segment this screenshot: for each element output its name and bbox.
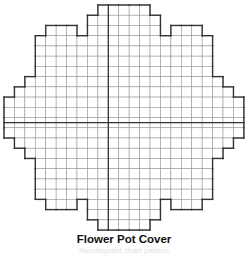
grid-cell <box>140 138 150 148</box>
grid-cell <box>140 25 150 35</box>
grid-cell <box>171 179 181 189</box>
grid-cell <box>108 138 118 148</box>
grid-cell <box>56 56 66 66</box>
grid-cell <box>77 77 87 87</box>
grid-cell <box>119 148 129 158</box>
grid-cell <box>140 15 150 25</box>
grid-cell <box>108 220 118 230</box>
grid-cell <box>14 87 24 97</box>
grid-cell <box>25 97 35 107</box>
grid-cell <box>14 138 24 148</box>
grid-cell <box>171 25 181 35</box>
grid-cell <box>129 15 139 25</box>
grid-cell <box>171 66 181 76</box>
grid-cell <box>150 148 160 158</box>
grid-cell <box>160 36 170 46</box>
grid-cell <box>171 158 181 168</box>
grid-cell <box>160 148 170 158</box>
grid-cell <box>129 220 139 230</box>
grid-cell <box>192 46 202 56</box>
grid-cell <box>181 46 191 56</box>
grid-cell <box>150 138 160 148</box>
grid-cell <box>160 66 170 76</box>
grid-cell <box>181 199 191 209</box>
grid-cell <box>140 158 150 168</box>
grid-cell <box>119 189 129 199</box>
grid-cell <box>98 148 108 158</box>
grid-cell <box>108 189 118 199</box>
grid-cell <box>98 199 108 209</box>
grid-cell <box>67 77 77 87</box>
grid-cell <box>181 66 191 76</box>
grid-cell <box>108 5 118 15</box>
grid-cell <box>171 199 181 209</box>
grid-cell <box>140 107 150 117</box>
grid-cell <box>35 36 45 46</box>
grid-cell <box>46 158 56 168</box>
grid-cell <box>171 56 181 66</box>
grid-cell <box>77 107 87 117</box>
grid-cell <box>14 128 24 138</box>
grid-cell <box>87 97 97 107</box>
grid-cell <box>129 56 139 66</box>
grid-cell <box>140 210 150 220</box>
grid-cell <box>192 97 202 107</box>
grid-cell <box>129 77 139 87</box>
grid-cell <box>46 25 56 35</box>
grid-cell <box>67 87 77 97</box>
grid-cell <box>108 158 118 168</box>
grid-cell <box>108 66 118 76</box>
grid-cell <box>87 210 97 220</box>
grid-cell <box>108 46 118 56</box>
grid-cell <box>150 77 160 87</box>
grid-cell <box>171 36 181 46</box>
grid-cell <box>150 169 160 179</box>
grid-cell <box>35 66 45 76</box>
grid-cell <box>67 128 77 138</box>
grid-cell <box>56 25 66 35</box>
grid-cell <box>129 210 139 220</box>
grid-cell <box>181 107 191 117</box>
grid-cell <box>140 66 150 76</box>
grid-cell <box>119 66 129 76</box>
grid-cell <box>192 56 202 66</box>
grid-cell <box>150 66 160 76</box>
grid-cell <box>56 46 66 56</box>
grid-cell <box>46 46 56 56</box>
grid-cell <box>140 199 150 209</box>
grid-cell <box>171 169 181 179</box>
grid-cell <box>171 107 181 117</box>
grid-cell <box>108 199 118 209</box>
grid-cell <box>160 128 170 138</box>
grid-cell <box>202 169 212 179</box>
grid-cell <box>108 210 118 220</box>
grid-cell <box>46 169 56 179</box>
grid-cell <box>129 138 139 148</box>
grid-cell <box>150 128 160 138</box>
grid-cell <box>67 138 77 148</box>
grid-cell <box>119 210 129 220</box>
grid-cell <box>25 128 35 138</box>
grid-cell <box>14 107 24 117</box>
grid-cell <box>98 128 108 138</box>
grid-cell <box>67 97 77 107</box>
grid-cell <box>119 77 129 87</box>
grid-cell <box>46 36 56 46</box>
grid-cell <box>56 179 66 189</box>
grid-cell <box>129 66 139 76</box>
grid-cell <box>87 179 97 189</box>
grid-cell <box>192 158 202 168</box>
grid-cell <box>108 87 118 97</box>
grid-cell <box>223 97 233 107</box>
grid-cell <box>140 56 150 66</box>
grid-cell <box>46 56 56 66</box>
grid-cell <box>119 15 129 25</box>
grid-cell <box>108 128 118 138</box>
grid-cell <box>87 66 97 76</box>
grid-cell <box>98 107 108 117</box>
grid-cell <box>119 138 129 148</box>
grid-cell <box>67 179 77 189</box>
grid-cell <box>233 97 243 107</box>
grid-cell <box>98 220 108 230</box>
grid-cell <box>160 169 170 179</box>
